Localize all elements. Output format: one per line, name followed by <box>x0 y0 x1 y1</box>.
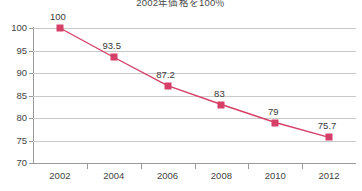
line-chart: 2002年価格を100％ 10093.587.2837975.7 1009590… <box>0 0 362 191</box>
x-tick-label-2008: 2008 <box>211 171 232 181</box>
y-tick-mark-75 <box>29 141 33 142</box>
x-tick-label-2012: 2012 <box>319 171 340 181</box>
y-tick-mark-90 <box>29 73 33 74</box>
x-tick-label-2010: 2010 <box>265 171 286 181</box>
x-tick-label-2004: 2004 <box>103 171 124 181</box>
y-tick-mark-70 <box>29 163 33 164</box>
y-tick-label-80: 80 <box>2 113 27 123</box>
x-tick-mark-1 <box>87 164 88 169</box>
y-axis-ticks: 100959085807570 <box>0 0 362 191</box>
y-tick-label-90: 90 <box>2 68 27 78</box>
y-tick-label-70: 70 <box>2 158 27 168</box>
y-tick-label-95: 95 <box>2 46 27 56</box>
x-tick-mark-4 <box>248 164 249 169</box>
y-tick-label-100: 100 <box>2 23 27 33</box>
y-tick-label-85: 85 <box>2 91 27 101</box>
x-tick-mark-5 <box>302 164 303 169</box>
y-tick-mark-80 <box>29 118 33 119</box>
x-tick-label-2002: 2002 <box>49 171 70 181</box>
x-tick-label-2006: 2006 <box>157 171 178 181</box>
y-tick-mark-100 <box>29 28 33 29</box>
x-tick-mark-2 <box>141 164 142 169</box>
y-tick-mark-95 <box>29 51 33 52</box>
y-tick-mark-85 <box>29 96 33 97</box>
x-tick-mark-3 <box>195 164 196 169</box>
y-tick-label-75: 75 <box>2 136 27 146</box>
